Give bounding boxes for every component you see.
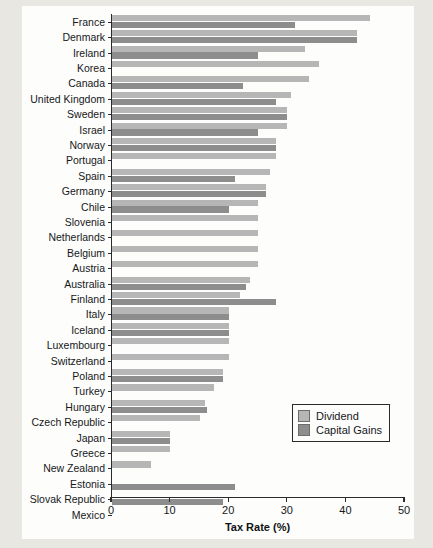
bar-capital-gains [112,284,246,290]
chart-row: Chile [112,199,404,214]
bar-capital-gains [112,407,207,413]
bar-capital-gains [112,99,276,105]
x-axis-tick [345,497,346,502]
bar-dividend [112,230,258,236]
legend-item: Capital Gains [298,423,382,437]
y-axis-label: Slovenia [65,217,105,228]
y-axis-label: Portugal [66,155,105,166]
bar-dividend [112,415,200,421]
bar-dividend [112,200,258,206]
bar-capital-gains [112,83,243,89]
y-axis-label: Norway [69,140,105,151]
bar-capital-gains [112,206,229,212]
chart-row: Iceland [112,322,404,337]
chart-row: Australia [112,276,404,291]
y-axis-label: Spain [78,171,105,182]
y-axis-tick [108,422,112,423]
chart-row: Spain [112,168,404,183]
bar-capital-gains [112,114,287,120]
y-axis-label: Japan [76,432,105,443]
y-axis-tick [108,361,112,362]
y-axis-tick [108,237,112,238]
chart-row: Italy [112,307,404,322]
x-axis-tick [228,497,229,502]
y-axis-label: Ireland [73,47,105,58]
y-axis-label: Canada [68,78,105,89]
legend-swatch-icon [298,410,310,422]
y-axis-label: Korea [77,63,105,74]
bar-dividend [112,153,276,159]
bar-capital-gains [112,37,357,43]
bar-capital-gains [112,129,258,135]
y-axis-tick [108,68,112,69]
y-axis-label: Iceland [71,325,105,336]
y-axis-label: France [72,16,105,27]
x-axis-tick [286,497,287,502]
bar-capital-gains [112,22,295,28]
bar-dividend [112,123,287,129]
y-axis-label: Luxembourg [47,340,105,351]
y-axis-tick [108,253,112,254]
bar-dividend [112,431,170,437]
chart-row: Slovenia [112,214,404,229]
y-axis-label: Estonia [70,479,105,490]
y-axis-tick [108,468,112,469]
legend-item: Dividend [298,409,382,423]
bar-dividend [112,92,291,98]
y-axis-label: Slovak Republic [30,494,105,505]
chart-row: Poland [112,368,404,383]
bar-dividend [112,261,258,267]
bar-capital-gains [112,438,170,444]
bar-capital-gains [112,191,266,197]
y-axis-label: Italy [86,309,105,320]
x-axis-tick-label: 20 [222,504,234,516]
y-axis-tick [108,222,112,223]
bar-capital-gains [112,484,235,490]
x-axis-tick-label: 40 [339,504,351,516]
y-axis-label: Israel [79,124,105,135]
bar-capital-gains [112,299,276,305]
bar-dividend [112,446,170,452]
bar-dividend [112,277,250,283]
y-axis-label: Denmark [62,32,105,43]
bar-dividend [112,30,357,36]
bar-dividend [112,323,229,329]
chart-row: Finland [112,291,404,306]
chart-row: Estonia [112,476,404,491]
chart-row: Belgium [112,245,404,260]
bar-dividend [112,61,319,67]
legend-label: Dividend [316,410,359,422]
y-axis-label: New Zealand [43,463,105,474]
bar-dividend [112,338,229,344]
y-axis-label: Czech Republic [31,417,105,428]
chart-row: Israel [112,122,404,137]
y-axis-label: Mexico [72,509,105,520]
legend-swatch-icon [298,424,310,436]
y-axis-tick [108,453,112,454]
bar-capital-gains [112,176,235,182]
y-axis-label: Sweden [67,109,105,120]
chart-row: Denmark [112,29,404,44]
x-axis-tick [110,497,111,502]
y-axis-tick [108,345,112,346]
x-axis-tick-label: 10 [163,504,175,516]
chart-legend: DividendCapital Gains [292,404,390,442]
y-axis-tick [108,160,112,161]
bar-dividend [112,292,240,298]
y-axis-label: Switzerland [51,355,105,366]
y-axis-tick [108,268,112,269]
x-axis-title: Tax Rate (%) [111,521,404,533]
chart-row: United Kingdom [112,91,404,106]
bar-capital-gains [112,330,229,336]
chart-row: Netherlands [112,230,404,245]
chart-row: Portugal [112,153,404,168]
chart-figure: FranceDenmarkIrelandKoreaCanadaUnited Ki… [22,6,414,539]
chart-row: France [112,14,404,29]
chart-row: Switzerland [112,353,404,368]
chart-row: Korea [112,60,404,75]
chart-row: Turkey [112,384,404,399]
chart-row: New Zealand [112,461,404,476]
x-axis: 01020304050 [111,497,404,498]
bar-dividend [112,184,266,190]
chart-row: Canada [112,76,404,91]
